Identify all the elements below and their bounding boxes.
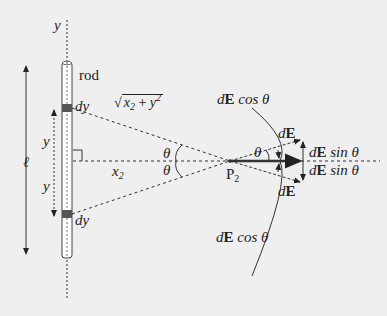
theta-upper-label: θ xyxy=(163,146,170,161)
dE-bottom-label: dE xyxy=(278,184,296,199)
dy-segment-top xyxy=(62,104,72,112)
p2-label: P2 xyxy=(226,167,239,184)
theta-arc-right xyxy=(266,150,269,161)
y-label-upper: y xyxy=(43,134,50,149)
dE-top-label: dE xyxy=(278,126,296,141)
y-axis-label: y xyxy=(54,18,61,33)
distance-line-top xyxy=(72,108,230,161)
dE-cos-label-top: dE cos θ xyxy=(217,92,269,107)
dE-bottom-arrow xyxy=(230,161,300,182)
dE-sin-label-bottom: dE sin θ xyxy=(309,163,359,178)
dy-label-bottom: dy xyxy=(75,213,89,228)
right-angle-mark xyxy=(73,150,82,161)
dy-segment-bottom xyxy=(62,210,72,218)
theta-right-label: θ xyxy=(254,145,261,160)
length-label: ℓ xyxy=(23,155,29,170)
y-label-lower: y xyxy=(43,179,50,194)
dE-sin-label-top: dE sin θ xyxy=(309,145,359,160)
x2-label: x2 xyxy=(112,164,124,181)
distance-sqrt-label: √x2 + y2 xyxy=(114,92,163,112)
dE-cos-label-bottom: dE cos θ xyxy=(216,230,268,245)
theta-lower-label: θ xyxy=(163,163,170,178)
rod-label: rod xyxy=(79,68,99,83)
dE-top-arrow xyxy=(230,140,300,161)
dy-label-top: dy xyxy=(75,99,89,114)
distance-line-bottom xyxy=(72,161,230,214)
